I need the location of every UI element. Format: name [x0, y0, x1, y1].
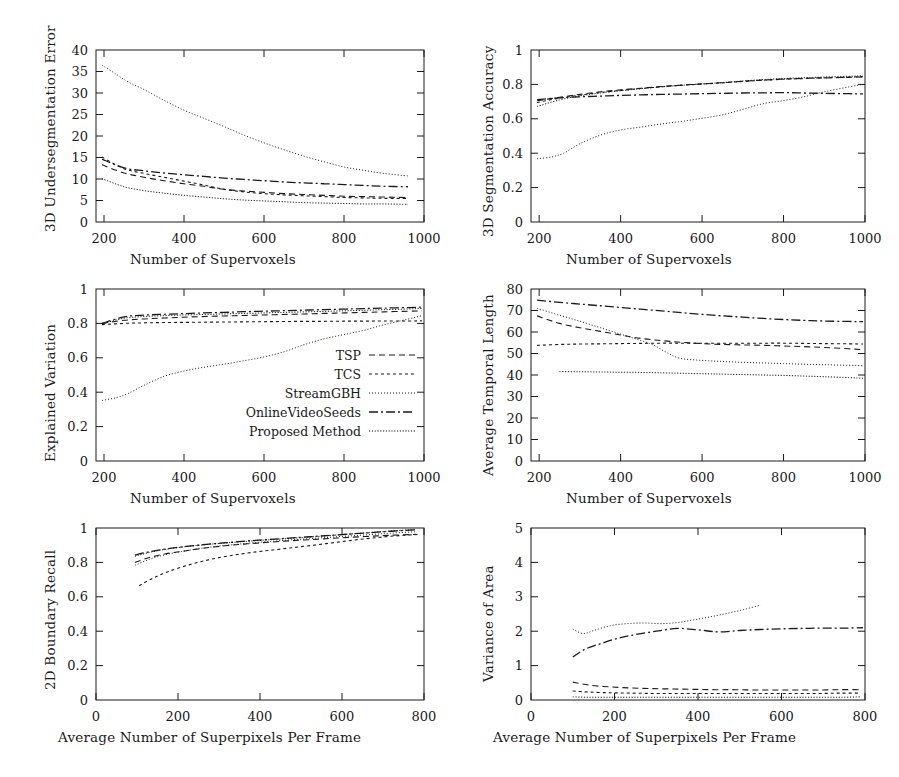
legend-label-tsp: TSP [336, 348, 361, 363]
y-tick-label: 1 [515, 43, 523, 58]
y-axis-label-average-temporal-length: Average Temporal Length [480, 294, 496, 476]
y-tick-label: 1 [515, 658, 523, 673]
subplot-variance-of-area: 0123450200400600800 [530, 527, 866, 701]
series-line-proposed-method [537, 76, 863, 107]
x-tick-label: 0 [92, 709, 100, 724]
x-tick-label: 200 [527, 470, 552, 485]
y-tick-label: 5 [80, 193, 88, 208]
series-line-tcs [537, 343, 863, 345]
series-line-tcs [573, 691, 861, 693]
x-tick-label: 600 [769, 709, 794, 724]
y-tick-label: 0 [80, 215, 88, 230]
y-tick-label: 0 [80, 454, 88, 469]
legend-label-tcs: TCS [335, 367, 361, 382]
y-tick-label: 0.8 [67, 555, 88, 570]
series-line-tcs [102, 321, 422, 325]
subplot-segmentation-accuracy: 00.20.40.60.812004006008001000 [530, 49, 866, 223]
x-tick-label: 200 [602, 709, 627, 724]
y-tick-label: 30 [71, 86, 88, 101]
y-tick-label: 1 [80, 282, 88, 297]
series-line-proposed-method [560, 372, 863, 379]
series-line-tcs [139, 535, 418, 586]
y-tick-label: 0.6 [502, 111, 523, 126]
series-line-tsp [573, 682, 861, 690]
y-tick-label: 2 [515, 624, 523, 639]
y-tick-label: 20 [506, 411, 523, 426]
plot-area-boundary-recall: 00.20.40.60.810200400600800 [95, 527, 425, 701]
series-line-streamgbh [102, 316, 422, 401]
y-tick-label: 0.6 [67, 350, 88, 365]
series-line-streamgbh [135, 532, 416, 566]
x-tick-label: 800 [332, 470, 357, 485]
y-tick-label: 40 [71, 43, 88, 58]
x-tick-label: 1000 [407, 231, 440, 246]
series-line-tcs [537, 77, 863, 103]
y-tick-label: 1 [80, 521, 88, 536]
x-tick-label: 800 [853, 709, 878, 724]
legend-label-streamgbh: StreamGBH [285, 386, 361, 401]
subplot-undersegmentation-error: 05101520253035402004006008001000 [95, 49, 425, 223]
x-tick-label: 800 [771, 470, 796, 485]
x-axis-label-variance-of-area: Average Number of Superpixels Per Frame [493, 729, 796, 745]
y-tick-label: 0 [515, 693, 523, 708]
y-tick-label: 0 [515, 454, 523, 469]
y-tick-label: 0.4 [502, 146, 523, 161]
x-tick-label: 400 [172, 470, 197, 485]
x-axis-label-segmentation-accuracy: Number of Supervoxels [566, 251, 732, 267]
y-tick-label: 0.6 [67, 589, 88, 604]
plot-area-explained-variation: 00.20.40.60.812004006008001000TSPTCSStre… [95, 288, 425, 462]
y-tick-label: 0.4 [67, 385, 88, 400]
y-tick-label: 0 [515, 215, 523, 230]
subplot-explained-variation: 00.20.40.60.812004006008001000TSPTCSStre… [95, 288, 425, 462]
y-axis-label-explained-variation: Explained Variation [42, 324, 58, 462]
x-axis-label-explained-variation: Number of Supervoxels [130, 490, 296, 506]
y-tick-label: 0.8 [67, 316, 88, 331]
y-axis-label-segmentation-accuracy: 3D Segmentation Accuracy [480, 46, 496, 237]
plot-area-variance-of-area: 0123450200400600800 [530, 527, 866, 701]
x-tick-label: 1000 [848, 470, 881, 485]
y-tick-label: 10 [71, 172, 88, 187]
y-tick-label: 40 [506, 368, 523, 383]
subplot-average-temporal-length: 010203040506070802004006008001000 [530, 288, 866, 462]
x-tick-label: 400 [172, 231, 197, 246]
x-tick-label: 200 [527, 231, 552, 246]
y-tick-label: 0 [80, 693, 88, 708]
plot-frame [531, 528, 865, 700]
y-tick-label: 80 [506, 282, 523, 297]
x-tick-label: 1000 [407, 470, 440, 485]
y-tick-label: 10 [506, 432, 523, 447]
plot-frame [531, 289, 865, 461]
x-tick-label: 200 [92, 470, 117, 485]
series-line-onlinevideoseeds [573, 628, 863, 657]
y-tick-label: 30 [506, 389, 523, 404]
x-tick-label: 600 [690, 470, 715, 485]
x-tick-label: 0 [527, 709, 535, 724]
y-tick-label: 70 [506, 303, 523, 318]
y-tick-label: 5 [515, 521, 523, 536]
y-tick-label: 15 [71, 150, 88, 165]
y-tick-label: 0.2 [502, 180, 523, 195]
legend-label-proposed-method: Proposed Method [249, 424, 361, 439]
figure-canvas: 051015202530354020040060080010003D Under… [0, 0, 899, 777]
x-tick-label: 200 [92, 231, 117, 246]
y-tick-label: 3 [515, 589, 523, 604]
x-tick-label: 600 [690, 231, 715, 246]
y-axis-label-variance-of-area: Variance of Area [480, 565, 496, 682]
x-axis-label-boundary-recall: Average Number of Superpixels Per Frame [58, 729, 361, 745]
x-axis-label-average-temporal-length: Number of Supervoxels [566, 490, 732, 506]
y-tick-label: 4 [515, 555, 523, 570]
y-tick-label: 60 [506, 325, 523, 340]
subplot-boundary-recall: 00.20.40.60.810200400600800 [95, 527, 425, 701]
series-line-tsp [537, 77, 863, 101]
y-tick-label: 20 [71, 129, 88, 144]
x-tick-label: 600 [252, 231, 277, 246]
plot-area-average-temporal-length: 010203040506070802004006008001000 [530, 288, 866, 462]
y-tick-label: 25 [71, 107, 88, 122]
x-tick-label: 600 [330, 709, 355, 724]
plot-area-segmentation-accuracy: 00.20.40.60.812004006008001000 [530, 49, 866, 223]
y-tick-label: 50 [506, 346, 523, 361]
plot-frame [96, 528, 424, 700]
series-line-streamgbh [537, 308, 863, 365]
y-tick-label: 0.4 [67, 624, 88, 639]
y-tick-label: 0.8 [502, 77, 523, 92]
